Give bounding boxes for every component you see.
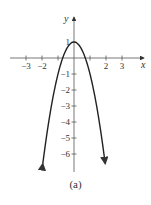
x-axis-label: x [140,59,146,70]
x-tick-label: 3 [120,61,125,71]
x-tick-label: −2 [37,61,47,71]
y-tick-label: −2 [60,85,70,95]
y-tick-label: −1 [60,69,70,79]
y-tick-label: −5 [60,133,70,143]
y-axis-label: y [63,13,69,24]
y-tick-label: −6 [60,149,70,159]
parabola-graph: −3−223 1−1−2−3−4−5−6 x y [0,0,151,205]
figure-caption: (a) [0,178,151,190]
y-tick-label: −4 [60,117,70,127]
y-tick-label: −3 [60,101,70,111]
x-tick-label: 2 [104,61,109,71]
x-tick-label: −3 [21,61,31,71]
